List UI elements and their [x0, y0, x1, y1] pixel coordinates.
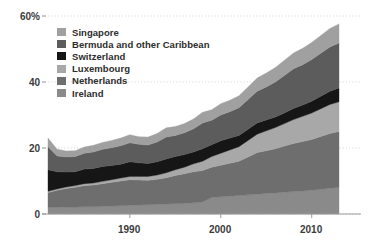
legend-label-netherlands: Netherlands	[72, 75, 127, 86]
chart-legend: Singapore Bermuda and other Caribbean Sw…	[57, 26, 210, 99]
y-axis-label-0: 0	[4, 209, 40, 220]
legend-item-netherlands[interactable]: Netherlands	[57, 75, 210, 87]
legend-swatch-netherlands	[57, 77, 66, 85]
legend-label-bermuda-and-other-caribbean: Bermuda and other Caribbean	[72, 39, 210, 50]
x-axis-label-2000: 2000	[209, 224, 231, 235]
legend-item-switzerland[interactable]: Switzerland	[57, 50, 210, 62]
legend-label-switzerland: Switzerland	[72, 51, 125, 62]
legend-label-luxembourg: Luxembourg	[72, 63, 130, 74]
legend-label-singapore: Singapore	[72, 27, 119, 38]
legend-swatch-bermuda-and-other-caribbean	[57, 40, 66, 48]
legend-item-ireland[interactable]: Ireland	[57, 87, 210, 99]
legend-item-bermuda-and-other-caribbean[interactable]: Bermuda and other Caribbean	[57, 38, 210, 50]
legend-item-luxembourg[interactable]: Luxembourg	[57, 63, 210, 75]
y-axis-label-40: 40	[4, 77, 40, 88]
y-axis-label-20: 20	[4, 143, 40, 154]
legend-swatch-luxembourg	[57, 65, 66, 73]
legend-item-singapore[interactable]: Singapore	[57, 26, 210, 38]
legend-swatch-ireland	[57, 89, 66, 97]
legend-swatch-singapore	[57, 28, 66, 36]
x-axis-label-1990: 1990	[118, 224, 140, 235]
legend-label-ireland: Ireland	[72, 88, 104, 99]
y-axis-label-60: 60%	[4, 11, 40, 22]
stacked-area-chart: 60% 40 20 0 1990 2000 2010 Singapore Ber…	[0, 0, 369, 247]
legend-swatch-switzerland	[57, 52, 66, 60]
x-axis-label-2010: 2010	[300, 224, 322, 235]
